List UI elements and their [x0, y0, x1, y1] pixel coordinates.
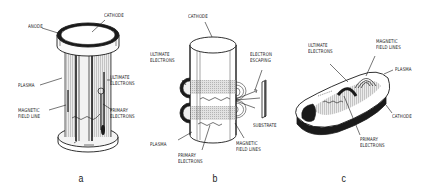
label-cathode: CATHODE	[392, 113, 412, 119]
label-anode: ANODE	[28, 23, 43, 29]
label-primary-electrons: PRIMARY ELECTRONS	[178, 152, 203, 164]
anode-top-ring	[57, 23, 119, 56]
label-line: ELECTRONS	[360, 142, 385, 148]
label-cathode: CATHODE	[188, 13, 208, 19]
label-line: ELECTRONS	[308, 48, 333, 54]
electron-escaping-arrows	[236, 90, 260, 108]
label-plasma: PLASMA	[150, 141, 167, 147]
ultimate-electrons-left	[180, 78, 190, 123]
label-substrate: SUBSTRATE	[253, 122, 277, 128]
label-magnetic-field-lines: MAGNETIC FIELD LINES	[236, 140, 261, 152]
panel-caption-b: b	[213, 172, 218, 184]
figure-drawings	[0, 0, 434, 195]
label-line: ESCAPING	[250, 57, 272, 63]
label-plasma: PLASMA	[395, 66, 412, 72]
label-cathode: CATHODE	[104, 12, 124, 18]
label-electron-escaping: ELECTRON ESCAPING	[250, 51, 272, 63]
label-line: ELECTRONS	[110, 113, 135, 119]
label-line: ELECTRONS	[110, 80, 135, 86]
label-line: FIELD LINES	[236, 146, 261, 152]
panel-a-drawing	[40, 20, 119, 152]
label-plasma: PLASMA	[18, 82, 35, 88]
label-ultimate-electrons: ULTIMATE ELECTRONS	[308, 42, 333, 54]
panel-caption-c: c	[342, 172, 346, 184]
cathode-post	[76, 52, 92, 142]
label-primary-electrons: PRIMARY ELECTRONS	[110, 107, 135, 119]
panel-c-drawing	[296, 56, 393, 135]
label-ultimate-electrons: ULTIMATE ELECTRONS	[110, 74, 135, 86]
label-line: FIELD LINE	[18, 113, 40, 119]
label-line: ELECTRONS	[150, 57, 175, 63]
label-ultimate-electrons: ULTIMATE ELECTRONS	[150, 51, 175, 63]
label-magnetic-field-line: MAGNETIC FIELD LINE	[18, 107, 40, 119]
label-line: FIELD LINES	[376, 44, 401, 50]
label-primary-electrons: PRIMARY ELECTRONS	[360, 136, 385, 148]
panel-b-drawing	[178, 22, 266, 150]
panel-caption-a: a	[79, 172, 84, 184]
label-magnetic-field-lines: MAGNETIC FIELD LINES	[376, 38, 401, 50]
label-line: ELECTRONS	[178, 158, 203, 164]
